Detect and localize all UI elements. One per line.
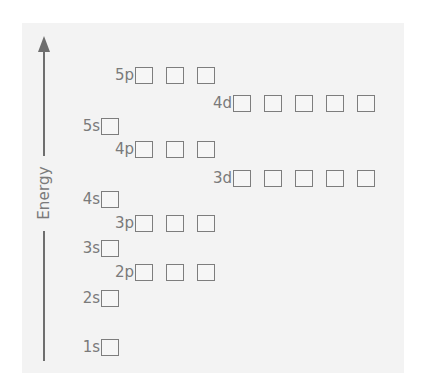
orbital-box	[135, 67, 153, 84]
orbital-box	[197, 215, 215, 232]
orbital-label: 1s	[76, 337, 100, 357]
energy-axis-line-upper	[43, 48, 45, 156]
orbital-box	[197, 67, 215, 84]
orbital-row-4d: 4d	[208, 93, 375, 113]
orbital-box	[295, 170, 313, 187]
orbital-box	[233, 95, 251, 112]
orbital-box	[101, 240, 119, 257]
orbital-label: 5s	[76, 116, 100, 136]
orbital-row-1s: 1s	[76, 337, 119, 357]
orbital-row-3d: 3d	[208, 168, 375, 188]
orbital-row-2s: 2s	[76, 288, 119, 308]
orbital-box	[357, 95, 375, 112]
orbital-box	[197, 264, 215, 281]
orbital-box	[326, 170, 344, 187]
orbital-box	[233, 170, 251, 187]
orbital-box	[135, 215, 153, 232]
orbital-box	[166, 215, 184, 232]
orbital-label: 4p	[110, 139, 134, 159]
energy-axis-label: Energy	[35, 166, 53, 220]
orbital-box	[101, 339, 119, 356]
orbital-box	[101, 191, 119, 208]
orbital-box	[166, 264, 184, 281]
orbital-row-4s: 4s	[76, 189, 119, 209]
orbital-label: 3p	[110, 213, 134, 233]
orbital-row-4p: 4p	[110, 139, 215, 159]
orbital-box	[101, 118, 119, 135]
orbital-label: 5p	[110, 65, 134, 85]
orbital-row-3p: 3p	[110, 213, 215, 233]
orbital-label: 2p	[110, 262, 134, 282]
orbital-label: 3d	[208, 168, 232, 188]
orbital-box	[357, 170, 375, 187]
orbital-box	[101, 290, 119, 307]
orbital-box	[326, 95, 344, 112]
orbital-label: 4d	[208, 93, 232, 113]
orbital-box	[135, 264, 153, 281]
orbital-box	[166, 141, 184, 158]
orbital-row-3s: 3s	[76, 238, 119, 258]
orbital-label: 4s	[76, 189, 100, 209]
orbital-box	[295, 95, 313, 112]
orbital-box	[264, 95, 282, 112]
orbital-box	[166, 67, 184, 84]
orbital-box	[197, 141, 215, 158]
orbital-box	[135, 141, 153, 158]
orbital-row-2p: 2p	[110, 262, 215, 282]
energy-axis-line-lower	[43, 231, 45, 361]
orbital-box	[264, 170, 282, 187]
orbital-row-5s: 5s	[76, 116, 119, 136]
orbital-label: 2s	[76, 288, 100, 308]
orbital-row-5p: 5p	[110, 65, 215, 85]
orbital-label: 3s	[76, 238, 100, 258]
